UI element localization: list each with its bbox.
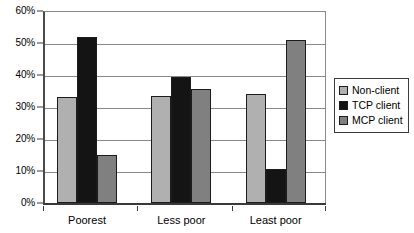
y-axis: 0%10%20%30%40%50%60% [0, 0, 43, 233]
legend-item-label: Non-client [352, 85, 399, 96]
x-axis-tick-mark [43, 206, 44, 211]
bar-chart: 0%10%20%30%40%50%60% PoorestLess poorLea… [0, 0, 414, 233]
bar [246, 94, 266, 203]
x-axis-tick-label: Poorest [68, 215, 106, 226]
legend-item: TCP client [339, 98, 403, 113]
bar [97, 155, 117, 203]
x-axis: PoorestLess poorLeast poor [43, 206, 326, 233]
y-axis-tick-label: 60% [16, 6, 35, 16]
legend-item: Non-client [339, 83, 403, 98]
bar-group [43, 11, 137, 203]
chart-legend: Non-clientTCP clientMCP client [334, 78, 409, 133]
bar [171, 77, 191, 203]
legend-item: MCP client [339, 113, 403, 128]
y-axis-tick-label: 10% [16, 166, 35, 176]
bar-group [137, 11, 231, 203]
bar [286, 40, 306, 203]
y-axis-tick-label: 0% [21, 198, 35, 208]
x-axis-tick-mark [137, 206, 138, 211]
bars-layer [43, 11, 326, 203]
bar [77, 37, 97, 203]
y-axis-tick-label: 50% [16, 38, 35, 48]
x-axis-tick-mark [325, 206, 326, 211]
legend-swatch-tcp-client-icon [339, 101, 348, 110]
bar [266, 169, 286, 203]
x-axis-tick-mark [232, 206, 233, 211]
legend-swatch-non-client-icon [339, 86, 348, 95]
bar-group [232, 11, 326, 203]
category-axis-line [43, 203, 326, 205]
bar [151, 96, 171, 203]
bar [57, 97, 77, 203]
legend-item-label: TCP client [352, 100, 400, 111]
legend-swatch-mcp-client-icon [339, 116, 348, 125]
y-axis-tick-label: 30% [16, 102, 35, 112]
x-axis-tick-label: Least poor [250, 215, 302, 226]
y-axis-tick-label: 40% [16, 70, 35, 80]
x-axis-tick-label: Less poor [157, 215, 205, 226]
bar [191, 89, 211, 203]
y-axis-tick-label: 20% [16, 134, 35, 144]
legend-item-label: MCP client [352, 115, 403, 126]
